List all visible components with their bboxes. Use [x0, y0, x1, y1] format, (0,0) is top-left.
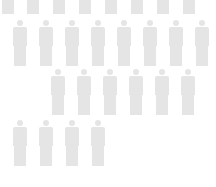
person-head: [17, 20, 23, 26]
person-icon: [38, 120, 54, 166]
person-head: [199, 20, 205, 26]
person-torso: [51, 76, 65, 95]
person-leg-right: [150, 46, 156, 66]
person-torso: [91, 127, 105, 146]
person-torso: [129, 76, 143, 95]
person-leg-right: [46, 146, 52, 166]
person-leg-right: [72, 46, 78, 66]
person-icon: [194, 20, 210, 66]
person-head: [121, 20, 127, 26]
person-head: [107, 69, 113, 75]
person-leg-right: [84, 95, 90, 115]
person-leg-right: [85, 0, 91, 14]
person-icon: [103, 0, 119, 14]
person-icon: [168, 20, 184, 66]
person-torso: [65, 27, 79, 46]
person-icon: [64, 20, 80, 66]
person-icon: [12, 20, 28, 66]
person-leg-right: [176, 46, 182, 66]
person-leg-right: [72, 146, 78, 166]
person-leg-right: [111, 0, 117, 14]
person-leg-right: [33, 0, 39, 14]
person-leg-right: [98, 46, 104, 66]
person-leg-right: [8, 0, 14, 14]
person-head: [147, 20, 153, 26]
person-head: [133, 69, 139, 75]
person-head: [185, 69, 191, 75]
person-torso: [117, 27, 131, 46]
person-head: [173, 20, 179, 26]
person-leg-right: [136, 95, 142, 115]
person-torso: [181, 76, 195, 95]
person-leg-right: [110, 95, 116, 115]
person-icon: [25, 0, 41, 14]
person-leg-right: [20, 46, 26, 66]
person-icon: [155, 0, 171, 14]
person-head: [95, 20, 101, 26]
person-leg-right: [59, 0, 65, 14]
person-leg-right: [189, 0, 195, 14]
person-head: [81, 69, 87, 75]
person-torso: [195, 27, 209, 46]
person-leg-right: [188, 95, 194, 115]
person-leg-right: [46, 46, 52, 66]
person-icon: [64, 120, 80, 166]
person-leg-right: [20, 146, 26, 166]
person-head: [95, 120, 101, 126]
person-torso: [13, 127, 27, 146]
person-icon: [50, 69, 66, 115]
person-leg-right: [202, 46, 208, 66]
person-icon: [102, 69, 118, 115]
person-icon: [180, 69, 196, 115]
person-torso: [169, 27, 183, 46]
person-head: [159, 69, 165, 75]
person-torso: [155, 76, 169, 95]
person-leg-right: [124, 46, 130, 66]
person-icon: [12, 120, 28, 166]
person-leg-right: [98, 146, 104, 166]
person-leg-right: [162, 95, 168, 115]
person-icon: [181, 0, 197, 14]
person-icon: [128, 69, 144, 115]
person-icon: [77, 0, 93, 14]
person-icon: [76, 69, 92, 115]
person-icon: [154, 69, 170, 115]
person-icon-grid: [0, 0, 216, 187]
person-head: [55, 69, 61, 75]
person-torso: [39, 127, 53, 146]
person-icon: [129, 0, 145, 14]
person-icon: [38, 20, 54, 66]
person-head: [17, 120, 23, 126]
person-torso: [77, 76, 91, 95]
person-torso: [65, 127, 79, 146]
person-torso: [13, 27, 27, 46]
person-icon: [116, 20, 132, 66]
person-head: [43, 120, 49, 126]
person-icon: [0, 0, 16, 14]
person-torso: [39, 27, 53, 46]
person-icon: [90, 120, 106, 166]
person-torso: [143, 27, 157, 46]
person-leg-right: [137, 0, 143, 14]
person-icon: [51, 0, 67, 14]
person-head: [69, 120, 75, 126]
person-leg-right: [163, 0, 169, 14]
person-icon: [90, 20, 106, 66]
person-leg-right: [58, 95, 64, 115]
person-icon: [142, 20, 158, 66]
person-head: [69, 20, 75, 26]
person-torso: [91, 27, 105, 46]
person-torso: [103, 76, 117, 95]
person-head: [43, 20, 49, 26]
